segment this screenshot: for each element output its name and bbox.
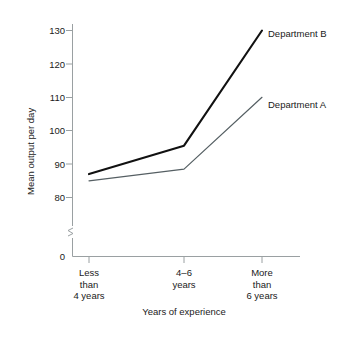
x-category-label-3: More than 6 years	[227, 267, 297, 302]
series-line-department-a	[89, 97, 262, 181]
y-tick-label-90: 90	[41, 160, 65, 170]
y-tick-label-130: 130	[41, 26, 65, 36]
series-label-department-b: Department B	[268, 29, 327, 39]
series-line-department-b	[89, 31, 262, 175]
y-tick-label-0: 0	[41, 252, 65, 262]
y-axis-title: Mean output per day	[26, 108, 36, 195]
y-tick-label-110: 110	[41, 93, 65, 103]
line-chart-figure: 130 120 110 100 90 80 0 Mean output per …	[0, 0, 343, 337]
x-category-label-2: 4–6 years	[149, 267, 219, 290]
y-tick-label-100: 100	[41, 126, 65, 136]
x-axis-title: Years of experience	[104, 307, 264, 317]
series-label-department-a: Department A	[268, 100, 326, 110]
y-tick-label-120: 120	[41, 60, 65, 70]
x-category-label-1: Less than 4 years	[54, 267, 124, 302]
y-axis-break-icon	[68, 228, 73, 236]
y-tick-label-80: 80	[41, 193, 65, 203]
